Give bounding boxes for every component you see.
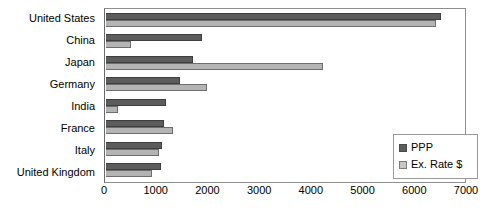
bar <box>106 56 193 63</box>
bar-group <box>106 52 464 74</box>
y-axis-tick-label: China <box>0 30 100 52</box>
bar <box>106 34 202 41</box>
bar <box>106 41 131 48</box>
bar-group <box>106 9 464 31</box>
bar <box>106 20 436 27</box>
bar <box>106 170 152 177</box>
x-axis-tick-label: 3000 <box>247 185 271 196</box>
legend-swatch-icon <box>399 161 407 169</box>
y-axis-category-labels: United States China Japan Germany India … <box>0 8 100 183</box>
x-axis-tick-label: 7000 <box>454 185 478 196</box>
legend-label: Ex. Rate $ <box>411 159 462 170</box>
legend-swatch-icon <box>399 144 407 152</box>
y-axis-tick-label: Japan <box>0 52 100 74</box>
x-axis-tick-label: 4000 <box>299 185 323 196</box>
y-axis-tick-label: Germany <box>0 74 100 96</box>
bar-group <box>106 95 464 117</box>
bar <box>106 142 162 149</box>
bar <box>106 163 161 170</box>
x-axis-tick-label: 5000 <box>350 185 374 196</box>
x-axis-tick-label: 1000 <box>143 185 167 196</box>
bar <box>106 63 323 70</box>
y-axis-tick-label: India <box>0 96 100 118</box>
y-axis-tick-label: United States <box>0 8 100 30</box>
x-axis-tick-label: 0 <box>101 185 107 196</box>
legend-item: Ex. Rate $ <box>399 156 477 173</box>
y-axis-tick-label: France <box>0 117 100 139</box>
x-axis: 01000200030004000500060007000 <box>104 183 466 213</box>
bar <box>106 99 166 106</box>
bar <box>106 149 159 156</box>
bar <box>106 106 118 113</box>
x-axis-tick-label: 2000 <box>195 185 219 196</box>
bar <box>106 127 173 134</box>
bar-group <box>106 74 464 96</box>
y-axis-tick-label: United Kingdom <box>0 161 100 183</box>
bar-group <box>106 31 464 53</box>
bar <box>106 13 441 20</box>
legend-item: PPP <box>399 139 477 156</box>
legend: PPP Ex. Rate $ <box>393 134 478 179</box>
bar <box>106 77 180 84</box>
x-axis-tick-label: 6000 <box>402 185 426 196</box>
bar <box>106 120 164 127</box>
bar <box>106 84 207 91</box>
legend-label: PPP <box>411 142 433 153</box>
y-axis-tick-label: Italy <box>0 139 100 161</box>
bar-chart: United States China Japan Germany India … <box>0 0 496 220</box>
